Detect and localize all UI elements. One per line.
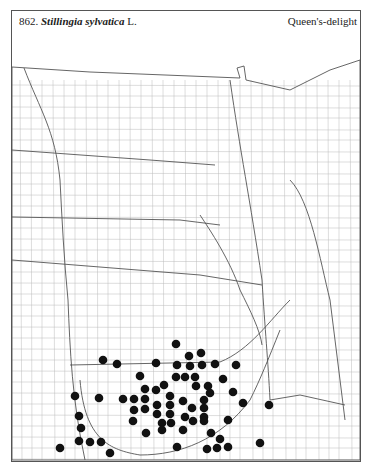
occurrence-dots [56, 340, 274, 458]
occurrence-dot [229, 388, 238, 397]
occurrence-dot [216, 435, 225, 444]
occurrence-dot [206, 389, 215, 398]
occurrence-dot [173, 443, 182, 452]
occurrence-dot [191, 373, 200, 382]
occurrence-dot [77, 424, 86, 433]
occurrence-dot [185, 352, 194, 361]
occurrence-dot [200, 396, 209, 405]
occurrence-dot [232, 361, 241, 370]
occurrence-dot [56, 444, 65, 453]
occurrence-dot [203, 445, 212, 454]
occurrence-dot [173, 361, 182, 370]
occurrence-dot [141, 385, 150, 394]
occurrence-dot [181, 373, 190, 382]
occurrence-dot [219, 375, 228, 384]
occurrence-dot [119, 395, 128, 404]
occurrence-dot [172, 340, 181, 349]
occurrence-dot [179, 397, 188, 406]
occurrence-dot [152, 359, 161, 368]
occurrence-dot [166, 410, 175, 419]
occurrence-dot [197, 349, 206, 358]
occurrence-dot [172, 373, 181, 382]
occurrence-dot [239, 399, 248, 408]
occurrence-dot [141, 395, 150, 404]
occurrence-dot [192, 382, 201, 391]
occurrence-dot [207, 429, 216, 438]
occurrence-dot [129, 417, 138, 426]
occurrence-dot [224, 416, 233, 425]
occurrence-dot [152, 386, 161, 395]
occurrence-dot [142, 429, 151, 438]
occurrence-dot [265, 401, 274, 410]
occurrence-dot [211, 360, 220, 369]
occurrence-dot [186, 362, 195, 371]
occurrence-dot [95, 394, 104, 403]
occurrence-dot [188, 404, 197, 413]
occurrence-dot [213, 444, 222, 453]
occurrence-dot [166, 392, 175, 401]
occurrence-dot [141, 405, 150, 414]
occurrence-dot [200, 417, 209, 426]
distribution-map [0, 0, 369, 468]
occurrence-dot [153, 410, 162, 419]
occurrence-dot [166, 401, 175, 410]
occurrence-dot [153, 401, 162, 410]
occurrence-dot [167, 419, 176, 428]
occurrence-dot [179, 426, 188, 435]
occurrence-dot [200, 404, 209, 413]
occurrence-dot [113, 360, 122, 369]
occurrence-dot [106, 449, 115, 458]
occurrence-dot [99, 356, 108, 365]
occurrence-dot [158, 426, 167, 435]
occurrence-dot [75, 437, 84, 446]
occurrence-dot [181, 413, 190, 422]
occurrence-dot [130, 406, 139, 415]
occurrence-dot [198, 361, 207, 370]
occurrence-dot [160, 381, 169, 390]
occurrence-dot [136, 372, 145, 381]
occurrence-dot [71, 392, 80, 401]
occurrence-dot [256, 439, 265, 448]
occurrence-dot [86, 438, 95, 447]
occurrence-dot [224, 443, 233, 452]
occurrence-dot [75, 412, 84, 421]
occurrence-dot [97, 438, 106, 447]
occurrence-dot [189, 417, 198, 426]
occurrence-dot [130, 395, 139, 404]
